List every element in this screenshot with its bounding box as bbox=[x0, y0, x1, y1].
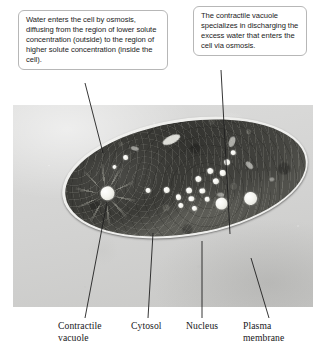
food-vacuole bbox=[195, 175, 202, 182]
osmosis-callout: Water enters the cell by osmosis, diffus… bbox=[18, 10, 168, 70]
label-plasma-membrane: Plasma membrane bbox=[243, 320, 313, 343]
label-nucleus: Nucleus bbox=[186, 320, 236, 332]
label-contractile-vacuole: Contractile vacuole bbox=[58, 320, 120, 343]
osmosis-paramecium-figure: Pond water Water enters the cell by osmo… bbox=[0, 0, 324, 356]
label-cytosol: Cytosol bbox=[131, 320, 186, 332]
cell-inclusion bbox=[217, 192, 224, 196]
food-vacuole bbox=[112, 165, 117, 170]
micrograph-photo: Pond water bbox=[13, 105, 313, 307]
food-vacuole bbox=[188, 195, 194, 201]
contractile-vacuole-callout: The contractile vacuole specializes in d… bbox=[193, 6, 307, 56]
food-vacuole bbox=[185, 187, 192, 194]
